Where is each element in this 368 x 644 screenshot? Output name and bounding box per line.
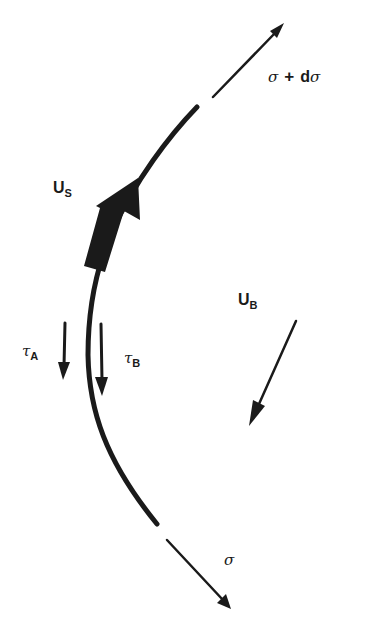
u-b-arrow	[249, 321, 296, 426]
u-b-sub: B	[250, 299, 258, 311]
tau-b-arrow	[95, 324, 108, 396]
tau-a-sub: A	[30, 350, 38, 362]
u-s-main: U	[53, 179, 65, 196]
curved-element	[88, 107, 197, 524]
sigma-symbol-2: σ	[310, 68, 320, 86]
sigma-arrow	[167, 540, 231, 609]
u-b-main: U	[238, 291, 250, 308]
label-u-b: UB	[238, 292, 258, 308]
d-symbol: d	[300, 68, 310, 85]
diagram-canvas	[0, 0, 368, 644]
label-sigma-plus-dsigma: σ+dσ	[268, 68, 320, 85]
label-tau-a: τA	[22, 343, 38, 359]
plus-sign: +	[284, 67, 294, 86]
u-s-arrow	[84, 178, 140, 272]
label-sigma: σ	[224, 553, 234, 568]
tau-a-arrow	[58, 323, 70, 380]
sigma-symbol: σ	[268, 68, 278, 86]
label-u-s: US	[53, 180, 72, 196]
label-tau-b: τB	[124, 350, 140, 366]
tau-b-sub: B	[132, 357, 140, 369]
u-s-sub: S	[65, 187, 72, 199]
